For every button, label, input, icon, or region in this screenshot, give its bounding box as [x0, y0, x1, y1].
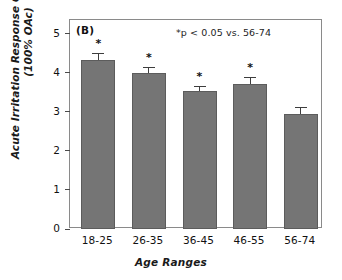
error-bar-cap-56-74	[295, 107, 307, 108]
bar-46-55	[233, 84, 267, 229]
error-bar-cap-36-45	[194, 86, 206, 87]
y-axis-tick	[65, 111, 70, 112]
bar-36-45	[183, 91, 217, 229]
bar-26-35	[132, 73, 166, 229]
figure-panel-b: Acute Irritation Response Grade (+ SE) (…	[0, 0, 342, 280]
x-axis-tick-label-26-35: 26-35	[132, 234, 163, 246]
y-axis-tick-label: 1	[40, 183, 60, 195]
bar-56-74	[284, 114, 318, 229]
y-axis-tick	[65, 229, 70, 230]
y-axis-tick	[65, 33, 70, 34]
y-axis-tick	[65, 72, 70, 73]
y-axis-tick-label: 0	[40, 222, 60, 234]
significance-star-18-25: *	[95, 38, 101, 49]
significance-star-26-35: *	[146, 52, 152, 63]
x-axis-tick-label-36-45: 36-45	[183, 234, 214, 246]
x-axis-tick-label-46-55: 46-55	[234, 234, 265, 246]
y-axis-tick	[65, 189, 70, 190]
y-axis-tick-label: 5	[40, 27, 60, 39]
y-axis-tick-label: 4	[40, 66, 60, 78]
significance-star-36-45: *	[197, 71, 203, 82]
x-axis-tick-label-18-25: 18-25	[82, 234, 113, 246]
y-axis-title: Acute Irritation Response Grade (+ SE) (…	[2, 0, 42, 148]
significance-star-46-55: *	[247, 62, 253, 73]
error-bar-cap-46-55	[244, 77, 256, 78]
x-axis-tick-label-56-74: 56-74	[284, 234, 315, 246]
error-bar-46-55	[250, 77, 251, 84]
plot-inner: ****	[70, 20, 321, 227]
error-bar-cap-26-35	[143, 67, 155, 68]
y-axis-title-line2: (100% OAc)	[22, 7, 35, 77]
y-axis-tick-label: 3	[40, 105, 60, 117]
y-axis-tick-label: 2	[40, 144, 60, 156]
error-bar-56-74	[300, 107, 301, 114]
plot-area: (B) *p < 0.05 vs. 56-74 ****	[69, 19, 322, 228]
y-axis-tick	[65, 150, 70, 151]
x-axis-title: Age Ranges	[0, 256, 342, 268]
error-bar-cap-18-25	[92, 53, 104, 54]
bar-18-25	[81, 60, 115, 229]
y-axis-title-line1: Acute Irritation Response Grade (+ SE)	[9, 0, 22, 159]
error-bar-18-25	[98, 53, 99, 60]
